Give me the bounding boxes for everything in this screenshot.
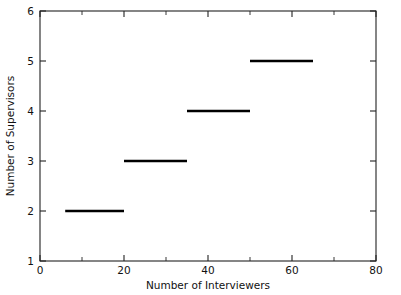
x-axis-title: Number of Interviewers	[146, 279, 270, 291]
y-tick-label: 4	[27, 105, 34, 117]
y-tick-label: 3	[27, 155, 34, 167]
x-tick-label: 40	[201, 264, 214, 276]
x-tick-label: 0	[37, 264, 44, 276]
x-tick-label: 80	[369, 264, 382, 276]
y-tick-label: 2	[27, 205, 34, 217]
x-tick-label: 20	[117, 264, 130, 276]
chart-container: 020406080 123456 Number of Interviewers …	[0, 0, 401, 295]
y-tick-label: 6	[27, 5, 34, 17]
x-tick-label: 60	[285, 264, 298, 276]
y-axis-title: Number of Supervisors	[4, 76, 16, 197]
step-chart: 020406080 123456 Number of Interviewers …	[0, 0, 401, 295]
y-tick-label: 5	[27, 55, 34, 67]
chart-background	[0, 0, 401, 295]
y-tick-label: 1	[27, 255, 34, 267]
